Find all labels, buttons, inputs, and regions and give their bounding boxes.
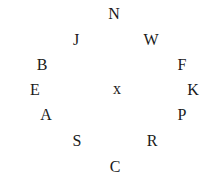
label-c: C (110, 159, 121, 175)
label-a: A (40, 107, 52, 123)
label-j: J (73, 32, 79, 48)
label-p: P (178, 107, 187, 123)
label-w: W (143, 32, 158, 48)
label-s: S (73, 133, 82, 149)
label-r: R (147, 133, 158, 149)
label-e: E (30, 82, 40, 98)
center-label-x: x (113, 81, 121, 97)
label-n: N (108, 6, 120, 22)
label-b: B (37, 57, 48, 73)
label-k: K (187, 82, 199, 98)
label-f: F (178, 57, 187, 73)
letter-circle-diagram: N W F K P R C S A E B J x (0, 0, 209, 181)
